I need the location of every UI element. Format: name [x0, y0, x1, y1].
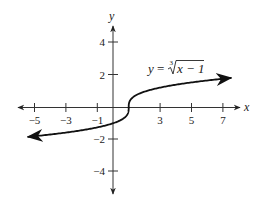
equation-equals: = — [154, 61, 165, 76]
x-tick-label: −1 — [91, 114, 103, 126]
cube-root-graph: −5 −3 −1 3 5 7 4 2 −2 −4 x y — [0, 0, 261, 201]
y-tick-label: −4 — [93, 165, 105, 177]
x-tick-label: 7 — [220, 114, 226, 126]
y-axis-label: y — [108, 9, 115, 23]
x-axis-label: x — [243, 100, 250, 114]
x-tick-label: 5 — [189, 114, 195, 126]
chart-container: −5 −3 −1 3 5 7 4 2 −2 −4 x y — [0, 0, 261, 201]
equation-radicand: x − 1 — [176, 61, 205, 76]
x-tick-label: 3 — [157, 114, 163, 126]
y-tick-label: −2 — [93, 133, 105, 145]
curve-right-arrow-icon — [129, 78, 231, 107]
y-tick-label: 4 — [100, 36, 106, 48]
x-tick-label: −5 — [29, 114, 41, 126]
y-tick-labels: 4 2 −2 −4 — [93, 36, 105, 177]
equation-root-index: 3 — [170, 59, 174, 67]
y-tick-label: 2 — [100, 69, 106, 81]
curve-left-arrow-icon — [28, 108, 128, 137]
equation-label: y = 3 x − 1 — [146, 59, 205, 76]
svg-text:y =: y = — [146, 61, 164, 76]
x-tick-label: −3 — [60, 114, 72, 126]
